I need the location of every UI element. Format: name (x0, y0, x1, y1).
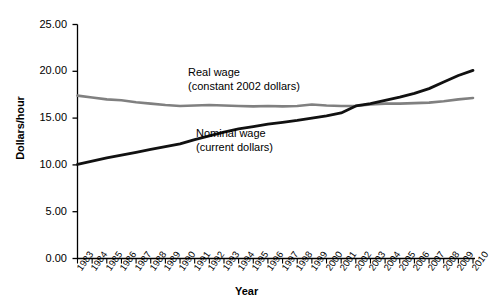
series-annotation-nominal-wage-sub: (current dollars) (196, 141, 273, 155)
x-axis-ticks (78, 259, 474, 264)
axis-spine (78, 25, 476, 259)
series-annotation-nominal-wage: Nominal wage (current dollars) (196, 127, 273, 155)
wage-line-chart: Dollars/hour Year 25.0020.0015.0010.005.… (0, 0, 501, 308)
series-annotation-nominal-wage-title: Nominal wage (196, 127, 273, 141)
series-annotation-real-wage-sub: (constant 2002 dollars) (188, 80, 300, 94)
series-annotation-real-wage-title: Real wage (188, 66, 300, 80)
series-annotation-real-wage: Real wage (constant 2002 dollars) (188, 66, 300, 94)
y-axis-ticks (73, 25, 78, 259)
series-line-real-wage (78, 96, 474, 107)
